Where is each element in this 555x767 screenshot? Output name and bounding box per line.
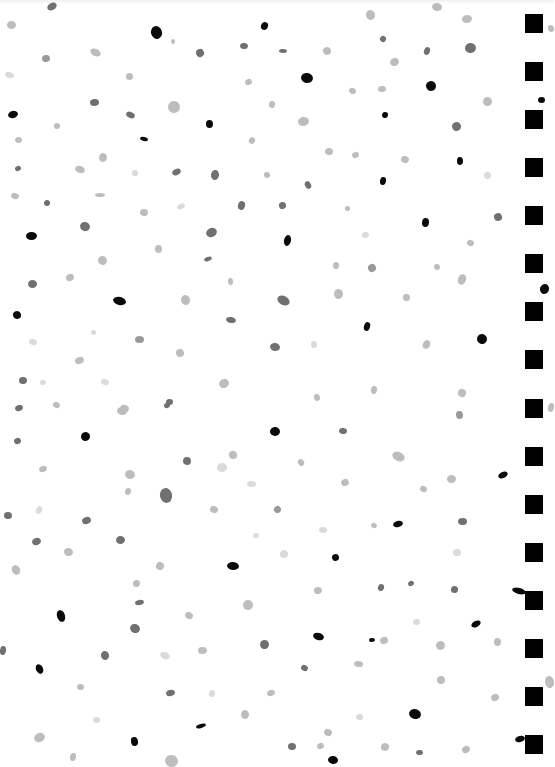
dot <box>205 226 219 239</box>
dot <box>195 48 206 59</box>
dot <box>239 42 248 50</box>
dot <box>279 202 287 210</box>
dot <box>69 752 77 761</box>
dot <box>465 43 477 54</box>
binding-hole <box>525 447 543 466</box>
dot <box>475 332 489 346</box>
dot <box>171 39 175 44</box>
dot <box>140 209 148 216</box>
dot <box>90 329 96 335</box>
dot <box>93 717 101 724</box>
dot <box>493 212 503 222</box>
binding-hole <box>525 14 543 33</box>
dot <box>124 487 131 495</box>
binding-hole <box>525 639 543 658</box>
dot <box>323 728 333 737</box>
dot <box>354 661 364 668</box>
dot <box>165 689 175 697</box>
dot <box>435 640 447 652</box>
dot <box>7 110 18 119</box>
dot <box>99 153 108 163</box>
dot <box>33 731 47 744</box>
dot <box>297 116 309 126</box>
dot <box>356 714 363 720</box>
dot <box>339 427 348 434</box>
dot <box>288 743 296 750</box>
dot <box>370 522 377 529</box>
dot <box>453 549 462 557</box>
dot <box>130 736 139 746</box>
dot <box>457 388 468 399</box>
dot <box>31 536 42 546</box>
dot <box>494 638 501 646</box>
dot <box>425 80 437 92</box>
dot <box>333 262 340 270</box>
dot <box>413 619 420 625</box>
dot <box>389 56 401 67</box>
dot <box>89 47 102 58</box>
dot <box>206 120 213 128</box>
dot <box>421 218 429 228</box>
dot <box>65 273 75 283</box>
dot <box>421 339 431 350</box>
dot <box>28 338 38 347</box>
binding-hole <box>525 158 543 177</box>
dot <box>327 755 338 764</box>
dot <box>364 9 376 22</box>
dot <box>132 170 139 177</box>
dot <box>470 619 482 629</box>
dot <box>260 21 269 31</box>
dot <box>26 232 37 240</box>
dot <box>300 664 309 673</box>
dot <box>80 431 92 443</box>
dot <box>367 263 378 274</box>
binding-hole <box>525 110 543 129</box>
dot <box>408 708 422 721</box>
dot <box>379 35 387 43</box>
binding-hole <box>525 302 543 321</box>
dot <box>304 180 313 190</box>
dot <box>361 231 369 238</box>
dot <box>407 580 414 587</box>
dot <box>135 599 145 605</box>
dot <box>400 155 410 164</box>
dot <box>363 321 371 331</box>
dot <box>115 535 125 544</box>
dot <box>129 623 141 635</box>
dot <box>176 203 185 211</box>
dot <box>344 205 351 212</box>
dot <box>310 341 317 349</box>
dot <box>163 753 180 767</box>
dot <box>316 742 325 750</box>
binding-hole <box>525 687 543 706</box>
dot <box>14 165 21 172</box>
dot <box>155 245 162 253</box>
dot <box>538 97 545 103</box>
dot <box>14 404 24 413</box>
dot <box>43 199 51 207</box>
dot <box>279 549 289 559</box>
dot <box>482 96 494 108</box>
dot <box>135 336 144 343</box>
dot <box>514 735 525 743</box>
dot <box>38 465 48 473</box>
dot <box>456 273 468 286</box>
dot <box>149 25 163 41</box>
dot <box>40 380 46 385</box>
dot <box>437 676 446 685</box>
dot <box>100 650 110 661</box>
binding-hole <box>525 495 543 514</box>
dot <box>125 111 136 120</box>
dot <box>334 289 344 300</box>
dot <box>351 151 359 159</box>
dot <box>490 692 500 702</box>
dot <box>457 157 463 165</box>
dot <box>461 744 471 754</box>
dot <box>4 71 14 79</box>
dot <box>180 294 191 305</box>
dot <box>74 165 86 175</box>
dot <box>269 342 281 352</box>
dot <box>370 386 377 395</box>
dot <box>461 14 472 23</box>
dot <box>112 296 126 307</box>
